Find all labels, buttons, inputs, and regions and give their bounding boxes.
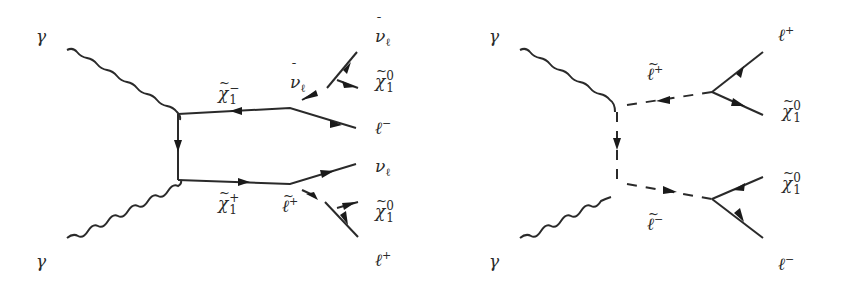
right-top-lepton-line [712, 52, 763, 92]
arrow-down-left-icon [733, 183, 745, 191]
arrow-right-icon [320, 170, 334, 178]
left-bottom-lepton-label: ℓ+ [375, 250, 391, 269]
left-diagram [67, 49, 358, 238]
right-bottom-neutralino-label: ~χ01 [782, 172, 801, 196]
right-diagram [520, 49, 763, 238]
right-bottom-photon-line [520, 197, 611, 238]
left-bottom-slepton-label: ~ℓ+ [282, 196, 298, 215]
arrow-down-icon [613, 138, 621, 150]
left-top-antineutrino-label: ¯νℓ [375, 28, 391, 48]
arrow-down-icon [174, 140, 182, 152]
arrow-left-icon [230, 107, 242, 115]
right-top-photon-line [520, 49, 615, 112]
left-bottom-photon-label: γ [36, 253, 46, 270]
right-bottom-lepton-label: ℓ− [778, 254, 794, 273]
left-top-lepton-label: ℓ− [375, 118, 391, 137]
left-top-photon-line [67, 49, 180, 120]
arrow-right-icon [342, 202, 356, 210]
left-top-sneutrino-label: ¯νℓ [290, 74, 306, 94]
left-bottom-photon-line [67, 180, 181, 238]
right-bottom-photon-label: γ [489, 253, 499, 270]
left-bottom-chargino-line [178, 164, 356, 184]
left-top-neutralino-label: ~χ01 [375, 70, 394, 94]
right-top-slepton-label: ~ℓ+ [647, 64, 663, 83]
right-top-neutralino-label: ~χ01 [782, 100, 801, 124]
right-top-photon-label: γ [489, 28, 499, 45]
left-bottom-chargino-label: ~χ+1 [218, 192, 239, 216]
right-top-lepton-label: ℓ+ [778, 25, 794, 44]
left-bottom-neutralino-label: ~χ01 [375, 200, 394, 224]
arrow-right-icon [342, 81, 356, 88]
arrow-right-icon [238, 178, 250, 186]
feynman-diagrams-canvas [0, 0, 848, 284]
left-bottom-neutrino-label: νℓ [375, 158, 391, 178]
left-top-chargino-line [178, 108, 356, 128]
arrow-right-icon [663, 186, 677, 194]
right-bottom-lepton-line [712, 199, 763, 238]
arrow-down-right-icon [731, 98, 745, 106]
arrow-left-icon [656, 96, 670, 104]
left-top-photon-label: γ [36, 28, 46, 45]
left-top-chargino-label: ~χ−1 [218, 82, 239, 106]
right-bottom-slepton-label: ~ℓ− [647, 214, 663, 233]
